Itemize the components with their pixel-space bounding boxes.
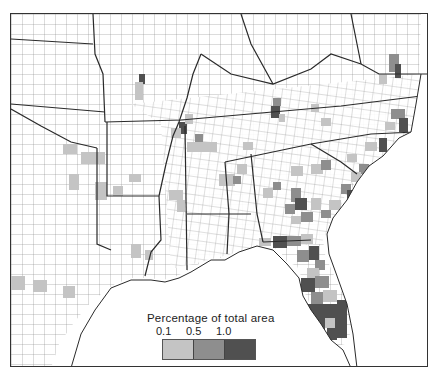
legend-tick-low: 0.1	[156, 325, 171, 337]
legend-swatch-light	[163, 340, 194, 359]
legend-swatch-dark	[225, 340, 255, 359]
legend-tick-high: 1.0	[216, 325, 231, 337]
legend-title: Percentage of total area	[147, 312, 267, 324]
legend-color-bar	[162, 339, 256, 360]
legend-tick-mid: 0.5	[186, 325, 201, 337]
legend-swatch-medium	[194, 340, 225, 359]
legend-ticks: 0.1 0.5 1.0	[147, 325, 267, 337]
map-legend: Percentage of total area 0.1 0.5 1.0	[147, 312, 267, 360]
map-frame: Percentage of total area 0.1 0.5 1.0	[10, 13, 428, 367]
